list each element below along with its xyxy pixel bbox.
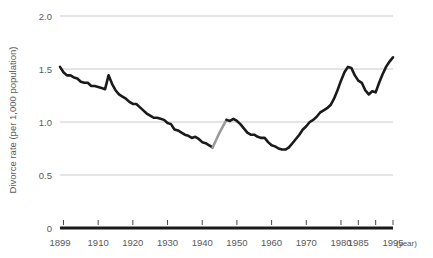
series-line [213, 120, 227, 148]
x-axis-tick-labels: 1899191019201930194019501960197019801985… [49, 237, 403, 248]
x-axis-tick-label: 1960 [261, 237, 282, 248]
gridlines [60, 16, 393, 175]
series-line [60, 67, 213, 148]
x-axis-tick-label: 1950 [226, 237, 247, 248]
y-axis-tick-label: 1.5 [39, 64, 52, 75]
x-axis-ticks [63, 220, 393, 225]
x-axis-unit-label: (year) [396, 239, 417, 248]
data-series [60, 57, 393, 149]
x-axis-tick-label: 1940 [192, 237, 213, 248]
x-axis-tick-label: 1930 [157, 237, 178, 248]
x-axis-tick-label: 1910 [88, 237, 109, 248]
x-axis-tick-label: 1985 [348, 237, 369, 248]
y-axis-tick-label: 2.0 [39, 11, 52, 22]
x-axis-tick-label: 1899 [49, 237, 70, 248]
y-axis-tick-label: 1.0 [39, 117, 52, 128]
y-axis-tick-label: 0.5 [39, 170, 52, 181]
x-axis-tick-label: 1920 [122, 237, 143, 248]
y-axis-title: Divorce rate (per 1,000 population) [7, 47, 18, 194]
y-axis-tick-labels: 00.51.01.52.0 [39, 11, 52, 234]
chart-canvas: 00.51.01.52.0 18991910192019301940195019… [0, 0, 433, 258]
y-axis-tick-label: 0 [47, 223, 52, 234]
x-axis-tick-label: 1970 [296, 237, 317, 248]
series-line [227, 57, 394, 149]
divorce-rate-chart: 00.51.01.52.0 18991910192019301940195019… [0, 0, 433, 258]
